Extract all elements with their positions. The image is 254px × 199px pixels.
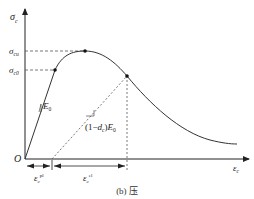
e0-label: E0 <box>42 101 52 112</box>
sigma-c0-label: σc0 <box>9 65 19 76</box>
yield-point <box>53 68 57 72</box>
x-axis-label: εc <box>233 163 240 174</box>
figure-caption: (b) 压 <box>116 186 138 196</box>
unloading-line <box>52 76 127 159</box>
origin-label: O <box>14 153 21 164</box>
stress-strain-curve <box>25 51 237 159</box>
plastic-strain-label: εcpl <box>34 173 44 184</box>
e0-slope-triangle <box>39 104 41 112</box>
sigma-cu-label: σcu <box>9 46 19 57</box>
unloading-slope-label: (1−dc)E0 <box>85 122 116 133</box>
elastic-strain-label: εcel <box>83 173 93 184</box>
unloading-point <box>125 74 129 78</box>
unloading-slope-triangle <box>86 110 94 116</box>
y-axis-label: σc <box>10 11 18 24</box>
peak-point <box>83 49 87 53</box>
stress-strain-diagram: σc σcu σc0 E0 (1−dc)E0 O εcpl εcel εc (b… <box>0 0 254 199</box>
